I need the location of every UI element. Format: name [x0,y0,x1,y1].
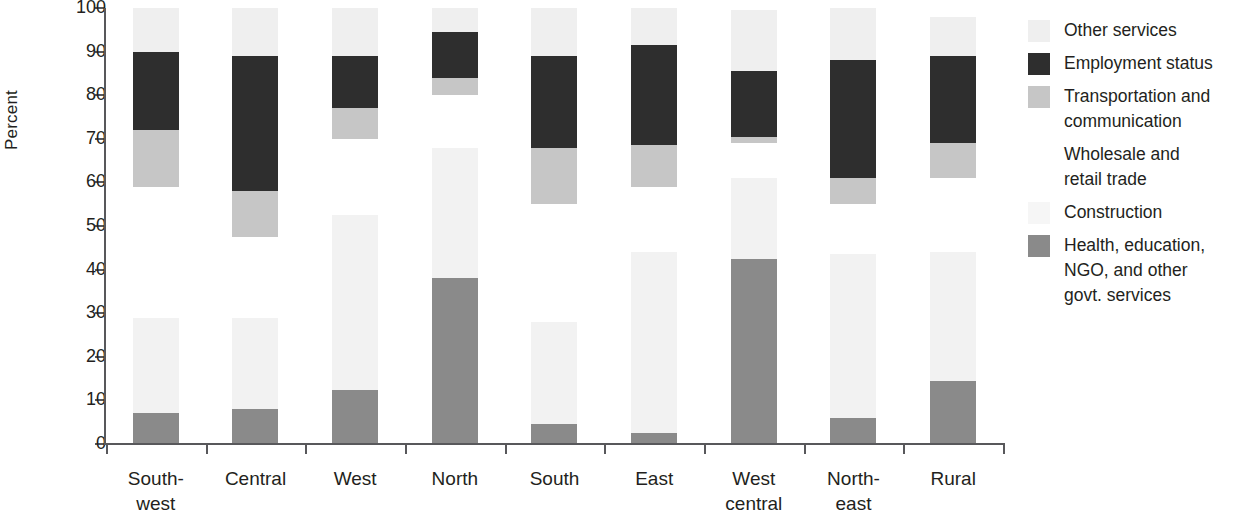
bar-segment-wholesale[interactable] [930,178,976,252]
bar-segment-wholesale[interactable] [432,95,478,147]
legend-swatch-other-services [1028,20,1050,42]
legend-item[interactable]: Employment status [1028,51,1254,76]
bar-column[interactable] [106,8,206,444]
legend-item-label: Other services [1064,18,1177,43]
bar-segment-construction[interactable] [930,252,976,381]
stacked-bar[interactable] [731,10,777,444]
x-axis-label-line: east [794,491,914,516]
bar-segment-construction[interactable] [432,148,478,279]
bar-segment-construction[interactable] [232,318,278,410]
legend-swatch-wholesale [1028,144,1050,166]
bar-segment-health[interactable] [830,418,876,444]
bar-segment-construction[interactable] [631,252,677,433]
y-axis-tick-label: 100 [62,0,106,16]
bar-segment-other[interactable] [631,8,677,45]
bar-segment-employment[interactable] [432,32,478,78]
bar-segment-transport[interactable] [631,145,677,186]
legend-item[interactable]: Transportation and communication [1028,84,1254,134]
bar-segment-transport[interactable] [332,108,378,139]
bar-segment-employment[interactable] [531,56,577,148]
x-axis-tick [405,443,407,454]
legend-item-label: Wholesale and retail trade [1064,142,1180,192]
bar-segment-employment[interactable] [332,56,378,108]
legend-swatch-transportation [1028,86,1050,108]
bar-segment-wholesale[interactable] [232,237,278,318]
bar-segment-other[interactable] [332,8,378,56]
bar-segment-other[interactable] [930,17,976,56]
chart-legend: Other servicesEmployment statusTransport… [1028,18,1254,316]
bar-segment-employment[interactable] [731,71,777,136]
x-axis-label-line: Rural [893,466,1013,491]
stacked-bar[interactable] [531,8,577,444]
y-axis-ticks: 0102030405060708090100 [0,0,106,452]
bar-segment-wholesale[interactable] [830,204,876,254]
legend-item-label: Construction [1064,200,1162,225]
stacked-bar-chart: Percent 0102030405060708090100 South-wes… [0,0,1258,523]
bar-segment-other[interactable] [432,8,478,32]
legend-item[interactable]: Construction [1028,200,1254,225]
bar-segment-wholesale[interactable] [631,187,677,252]
bar-segment-employment[interactable] [133,52,179,130]
bar-segment-wholesale[interactable] [133,187,179,318]
bar-segment-wholesale[interactable] [531,204,577,322]
legend-swatch-employment-status [1028,53,1050,75]
stacked-bar[interactable] [332,8,378,444]
bar-segment-wholesale[interactable] [332,139,378,215]
legend-item[interactable]: Wholesale and retail trade [1028,142,1254,192]
stacked-bar[interactable] [930,17,976,444]
bar-segment-transport[interactable] [830,178,876,204]
x-axis-tick [1003,443,1005,454]
bar-segment-construction[interactable] [531,322,577,424]
y-axis-tick-label: 90 [62,42,106,60]
bar-segment-transport[interactable] [232,191,278,237]
bar-segment-construction[interactable] [332,215,378,389]
stacked-bar[interactable] [133,8,179,444]
bar-column[interactable] [903,8,1003,444]
stacked-bar[interactable] [432,8,478,444]
bar-column[interactable] [505,8,605,444]
bar-segment-transport[interactable] [133,130,179,187]
legend-item-label: Employment status [1064,51,1213,76]
bar-segment-transport[interactable] [531,148,577,205]
bar-column[interactable] [604,8,704,444]
bar-segment-employment[interactable] [631,45,677,145]
bar-segment-other[interactable] [731,10,777,71]
y-axis-tick-label: 70 [62,129,106,147]
bar-segment-health[interactable] [930,381,976,444]
bar-column[interactable] [206,8,306,444]
plot-area [106,8,1003,444]
bar-column[interactable] [305,8,405,444]
bar-segment-construction[interactable] [830,254,876,418]
bar-segment-construction[interactable] [133,318,179,414]
bar-segment-health[interactable] [432,278,478,444]
stacked-bar[interactable] [631,8,677,444]
bar-segment-other[interactable] [232,8,278,56]
bar-segment-transport[interactable] [432,78,478,95]
bar-segment-health[interactable] [332,390,378,445]
bar-segment-health[interactable] [232,409,278,444]
legend-item[interactable]: Other services [1028,18,1254,43]
legend-item[interactable]: Health, education, NGO, and other govt. … [1028,233,1254,308]
bar-segment-construction[interactable] [731,178,777,259]
bar-segment-transport[interactable] [930,143,976,178]
stacked-bar[interactable] [830,8,876,444]
stacked-bar[interactable] [232,8,278,444]
bar-column[interactable] [804,8,904,444]
bar-segment-wholesale[interactable] [731,143,777,178]
y-axis-tick-label: 20 [62,347,106,365]
bar-column[interactable] [704,8,804,444]
bar-column[interactable] [405,8,505,444]
bar-segment-employment[interactable] [930,56,976,143]
bar-segment-employment[interactable] [232,56,278,191]
bar-segment-employment[interactable] [830,60,876,178]
legend-swatch-construction [1028,202,1050,224]
bar-segment-other[interactable] [830,8,876,60]
bar-segment-health[interactable] [731,259,777,444]
y-axis-tick-label: 60 [62,172,106,190]
bar-segment-health[interactable] [531,424,577,444]
bar-segment-health[interactable] [133,413,179,444]
bar-segment-other[interactable] [531,8,577,56]
x-axis-tick [804,443,806,454]
x-axis-tick [505,443,507,454]
bar-segment-other[interactable] [133,8,179,52]
